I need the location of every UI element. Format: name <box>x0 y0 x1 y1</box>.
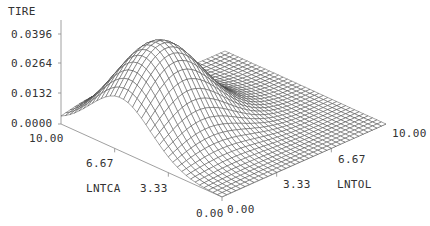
z-tick-label: 0.0264 <box>11 58 53 69</box>
x-axis-title: LNTCA <box>86 183 121 194</box>
y-tick-label: 0.00 <box>227 204 255 215</box>
z-tick-label: 0.0132 <box>11 88 53 99</box>
x-tick-label: 0.00 <box>196 208 224 219</box>
y-axis-title: LNTOL <box>337 179 372 190</box>
surface-wireframe <box>0 0 430 226</box>
z-tick-label: 0.0000 <box>11 118 53 129</box>
z-axis-title: TIRE <box>8 6 36 17</box>
x-tick-label: 6.67 <box>86 158 114 169</box>
surface-plot: TIRE 0.0396 0.0264 0.0132 0.0000 10.00 6… <box>0 0 430 226</box>
x-tick-label: 3.33 <box>140 183 168 194</box>
z-tick-label: 0.0396 <box>11 29 53 40</box>
y-tick-label: 10.00 <box>392 128 427 139</box>
x-tick-label: 10.00 <box>29 133 64 144</box>
y-tick-label: 3.33 <box>283 179 311 190</box>
y-tick-label: 6.67 <box>338 154 366 165</box>
